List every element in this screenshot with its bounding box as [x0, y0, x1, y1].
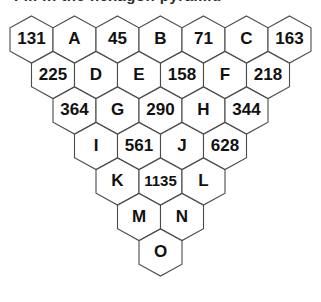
hex-cell-label-r0c3: B [154, 29, 166, 48]
hex-cell-label-r1c1: D [90, 65, 102, 84]
hexagon-pyramid-svg: 131A45B71C163225DE158F218364G290H344I561… [0, 0, 321, 302]
hexagon-pyramid-diagram: 131A45B71C163225DE158F218364G290H344I561… [0, 0, 321, 302]
hex-cell-label-r3c0: I [94, 136, 99, 155]
hex-cell-label-r1c2: E [133, 65, 144, 84]
hex-cell-label-r2c2: 290 [146, 100, 174, 119]
hex-cell-label-r0c1: A [68, 29, 80, 48]
hex-cell-label-r4c1: 1135 [144, 172, 177, 189]
hex-cell-label-r6c0: O [154, 242, 167, 261]
hex-cell-label-r0c6: 163 [275, 29, 303, 48]
hex-cell-label-r0c5: C [240, 29, 252, 48]
hex-cell-label-r1c4: F [220, 65, 230, 84]
hex-cell-label-r2c1: G [111, 100, 124, 119]
hex-cell-label-r5c0: M [132, 207, 146, 226]
hex-cell-label-r2c3: H [197, 100, 209, 119]
hex-cell-label-r2c0: 364 [60, 100, 89, 119]
hex-cell-label-r0c0: 131 [17, 29, 45, 48]
hex-cell-label-r3c2: J [177, 136, 186, 155]
hex-cell-label-r1c3: 158 [168, 65, 196, 84]
hex-cell-label-r4c2: L [198, 171, 208, 190]
hex-cell-label-r5c1: N [176, 207, 188, 226]
hex-cell-label-r4c0: K [111, 171, 124, 190]
hex-cell-label-r3c3: 628 [211, 136, 239, 155]
hex-cell-label-r1c5: 218 [254, 65, 282, 84]
hex-cell-label-r1c0: 225 [39, 65, 67, 84]
hex-cell-label-r3c1: 561 [125, 136, 153, 155]
hex-cell-label-r2c4: 344 [232, 100, 261, 119]
hex-cell-label-r0c2: 45 [108, 29, 127, 48]
hex-cell-label-r0c4: 71 [194, 29, 213, 48]
hexagon-layer: 131A45B71C163225DE158F218364G290H344I561… [10, 16, 311, 276]
